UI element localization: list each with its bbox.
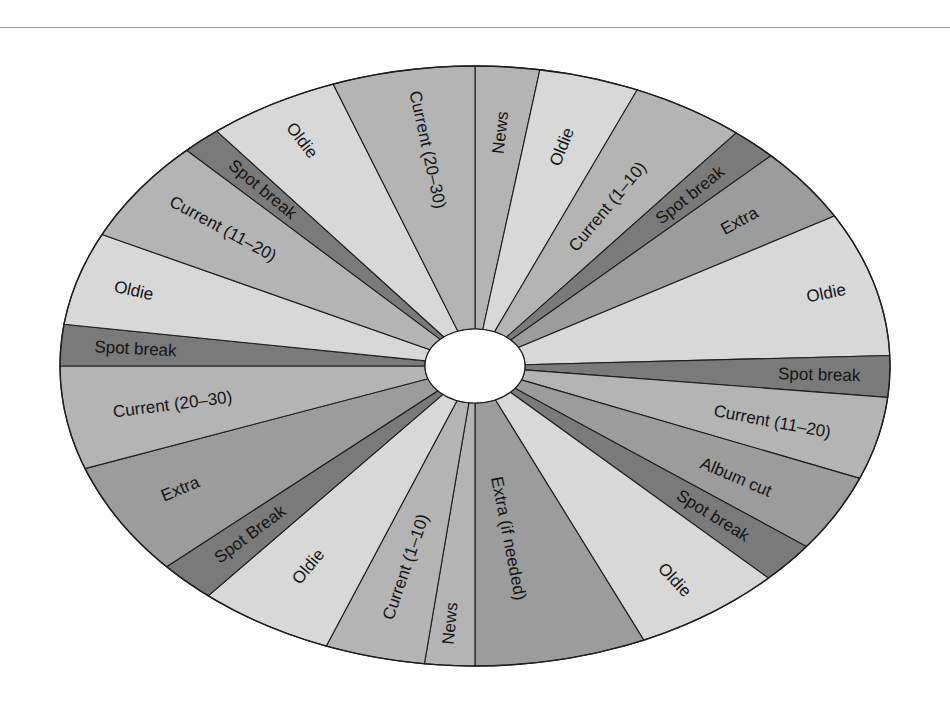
wheel-center-hub — [425, 329, 525, 403]
format-clock-wheel: NewsOldieCurrent (1–10)Spot breakExtraOl… — [0, 0, 950, 703]
segment-label: News — [439, 601, 462, 645]
segment-label: Spot break — [778, 364, 861, 385]
